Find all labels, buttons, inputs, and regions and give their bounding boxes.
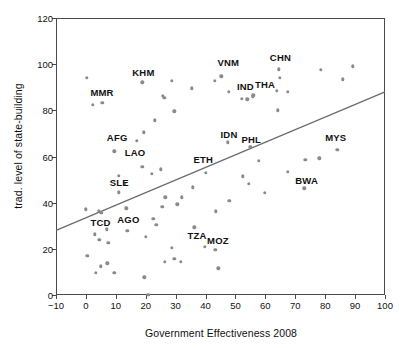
point-label-tza: TZA (188, 230, 207, 241)
y-tick-label: 40 (42, 197, 53, 208)
x-tick-label: 40 (200, 300, 211, 311)
x-tick-label: 50 (230, 300, 241, 311)
y-tick-label: 0 (48, 290, 53, 301)
x-tick-mark (235, 295, 236, 299)
x-tick-label: 0 (83, 300, 88, 311)
point-label-vnm: VNM (218, 57, 240, 68)
x-tick-label: 90 (350, 300, 361, 311)
x-tick-label: 60 (260, 300, 271, 311)
x-tick-label: 100 (377, 300, 393, 311)
y-tick-label: 120 (37, 13, 53, 24)
point-label-mmr: MMR (90, 87, 113, 98)
scatter-chart: trad. level of state-building 0204060801… (0, 0, 402, 348)
x-tick-label: −10 (48, 300, 64, 311)
point-label-eth: ETH (194, 154, 214, 165)
y-tick-label: 60 (42, 151, 53, 162)
point-label-tha: THA (255, 79, 275, 90)
x-tick-label: 70 (290, 300, 301, 311)
x-tick-mark (355, 295, 356, 299)
x-tick-mark (176, 295, 177, 299)
point-label-ind: IND (237, 81, 254, 92)
x-tick-mark (56, 295, 57, 299)
x-tick-label: 30 (170, 300, 181, 311)
point-label-lao: LAO (125, 147, 146, 158)
x-tick-mark (385, 295, 386, 299)
x-tick-label: 20 (140, 300, 151, 311)
y-tick-label: 20 (42, 243, 53, 254)
point-label-bwa: BWA (295, 175, 318, 186)
x-tick-mark (116, 295, 117, 299)
plot-area: 020406080100120 −10010203040506070809010… (56, 18, 385, 295)
x-tick-mark (295, 295, 296, 299)
point-label-tcd: TCD (90, 217, 110, 228)
x-tick-label: 10 (111, 300, 122, 311)
point-label-moz: MOZ (207, 235, 229, 246)
y-tick-label: 80 (42, 105, 53, 116)
x-tick-mark (265, 295, 266, 299)
point-label-phl: PHL (241, 134, 261, 145)
point-label-afg: AFG (107, 132, 128, 143)
x-tick-label: 80 (320, 300, 331, 311)
x-tick-mark (86, 295, 87, 299)
point-label-khm: KHM (132, 67, 154, 78)
point-label-sle: SLE (110, 177, 129, 188)
point-label-idn: IDN (221, 129, 238, 140)
x-axis-title: Government Effectiveness 2008 (56, 327, 386, 339)
point-label-chn: CHN (270, 52, 291, 63)
x-tick-mark (206, 295, 207, 299)
point-label-ago: AGO (117, 214, 139, 225)
y-tick-label: 100 (37, 59, 53, 70)
x-tick-mark (325, 295, 326, 299)
data-point (146, 293, 149, 296)
y-axis-title: trad. level of state-building (12, 46, 24, 246)
point-label-mys: MYS (325, 132, 346, 143)
